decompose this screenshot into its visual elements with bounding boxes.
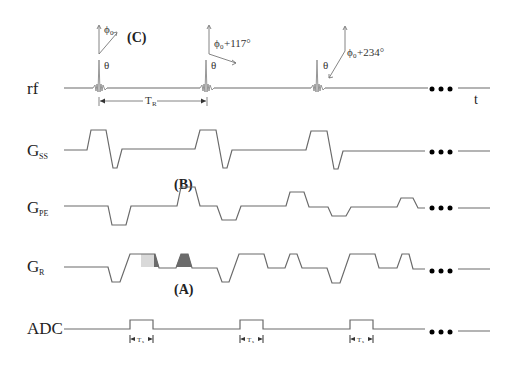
adc-waveform [64, 320, 490, 331]
svg-text:0: 0 [110, 29, 114, 37]
pulse-sequence-diagram: rf G SS G PE G R ADC t θ θ θ ϕ 0 (C) [0, 0, 510, 365]
svg-text:SS: SS [39, 152, 48, 161]
svg-text:G: G [27, 141, 39, 160]
flip-angle-label-3: θ [323, 59, 328, 71]
phase-vector-3 [329, 26, 347, 78]
ts-interval-marker-2: T s [240, 335, 263, 344]
svg-text:T: T [145, 94, 152, 106]
ts-interval-marker-3: T s [350, 335, 373, 344]
svg-text:PE: PE [39, 209, 48, 218]
svg-text:s: s [362, 339, 364, 344]
svg-text:R: R [152, 100, 157, 108]
ts-interval-marker-1: T s [130, 335, 153, 344]
row-label-adc: ADC [27, 319, 63, 338]
svg-text:R: R [39, 268, 45, 277]
row-label-gpe: G PE [27, 198, 48, 218]
annotation-b: (B) [174, 177, 193, 193]
flip-angle-label-1: θ [104, 59, 109, 71]
gpe-waveform [64, 187, 490, 225]
row-label-gr: G R [27, 257, 45, 277]
svg-text:G: G [27, 198, 39, 217]
gr-continuation-dots [430, 269, 453, 274]
adc-continuation-dots [430, 330, 453, 335]
gr-shaded-light [141, 254, 154, 267]
gpe-continuation-dots [430, 206, 453, 211]
row-label-gss: G SS [27, 141, 48, 161]
phase-label-3: ϕ 0 +234° [347, 46, 384, 60]
phase-label-1: ϕ 0 [104, 23, 114, 37]
gss-continuation-dots [430, 150, 453, 155]
gr-waveform [64, 254, 490, 283]
phase-label-2: ϕ 0 +117° [214, 37, 251, 51]
time-axis-label: t [474, 92, 478, 107]
flip-angle-label-2: θ [211, 59, 216, 71]
svg-text:+117°: +117° [224, 37, 251, 49]
svg-text:s: s [252, 339, 254, 344]
svg-text:G: G [27, 257, 39, 276]
row-label-rf: rf [27, 79, 39, 98]
annotation-c: (C) [127, 30, 147, 46]
rf-continuation-dots [430, 87, 453, 92]
rf-line [64, 60, 490, 92]
tr-interval-marker: T R [99, 94, 207, 108]
svg-text:+234°: +234° [357, 46, 384, 58]
gss-waveform [64, 130, 490, 169]
annotation-a: (A) [174, 282, 194, 298]
svg-text:s: s [142, 339, 144, 344]
